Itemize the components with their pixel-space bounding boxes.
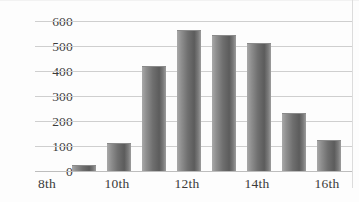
x-axis-tick-10th: 10th bbox=[95, 177, 139, 191]
bar-slot-15th bbox=[282, 21, 306, 171]
bar-chart-screenshot: 600 500 400 300 200 100 0 bbox=[0, 0, 359, 202]
bar-slot-14th bbox=[247, 21, 271, 171]
bar-slot-11th bbox=[142, 21, 166, 171]
bar-series-container bbox=[35, 21, 352, 171]
bar-slot-13th bbox=[212, 21, 236, 171]
bar-13th bbox=[212, 35, 236, 171]
bar-slot-16th bbox=[317, 21, 341, 171]
chart-plot-region: 600 500 400 300 200 100 0 bbox=[0, 0, 359, 202]
bar-10th bbox=[107, 143, 131, 172]
x-axis-tick-8th: 8th bbox=[25, 177, 69, 191]
bar-11th bbox=[142, 66, 166, 171]
bar-slot-9th bbox=[72, 21, 96, 171]
axis-baseline-0 bbox=[35, 171, 352, 172]
bar-slot-10th bbox=[107, 21, 131, 171]
bar-15th bbox=[282, 113, 306, 172]
bar-16th bbox=[317, 140, 341, 171]
x-axis-tick-14th: 14th bbox=[235, 177, 279, 191]
bar-slot-8th bbox=[37, 21, 61, 171]
bar-9th bbox=[72, 165, 96, 171]
bar-slot-12th bbox=[177, 21, 201, 171]
x-axis-tick-16th: 16th bbox=[305, 177, 349, 191]
x-axis-tick-12th: 12th bbox=[165, 177, 209, 191]
bar-12th bbox=[177, 30, 201, 171]
bar-14th bbox=[247, 43, 271, 172]
